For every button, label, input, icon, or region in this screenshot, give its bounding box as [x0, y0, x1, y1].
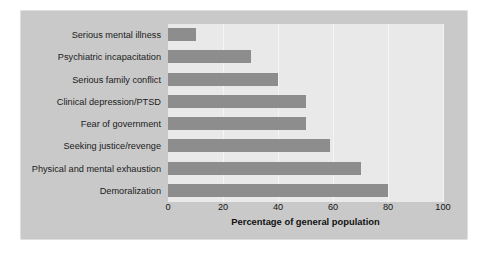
x-tick-label: 60 — [328, 202, 338, 212]
chart-panel: Serious mental illnessPsychiatric incapa… — [21, 11, 467, 239]
x-tick-label: 0 — [165, 202, 170, 212]
x-tick-label: 80 — [383, 202, 393, 212]
gridline-100 — [443, 24, 444, 202]
x-tick-label: 20 — [218, 202, 228, 212]
bar — [168, 162, 361, 175]
bar-row — [168, 180, 443, 202]
bar-series — [168, 24, 443, 202]
figure: Serious mental illnessPsychiatric incapa… — [0, 0, 488, 254]
bar-row — [168, 135, 443, 157]
bar-row — [168, 69, 443, 91]
category-label: Serious mental illness — [72, 24, 161, 46]
category-label: Physical and mental exhaustion — [32, 158, 161, 180]
bar — [168, 184, 388, 197]
bar — [168, 95, 306, 108]
bar — [168, 117, 306, 130]
category-label: Demoralization — [100, 180, 161, 202]
x-tick-label: 100 — [435, 202, 450, 212]
bar-row — [168, 91, 443, 113]
bar — [168, 28, 196, 41]
bar-row — [168, 46, 443, 68]
plot-area — [168, 24, 443, 202]
category-label: Seeking justice/revenge — [63, 135, 161, 157]
bar — [168, 50, 251, 63]
bar-row — [168, 24, 443, 46]
bar-row — [168, 158, 443, 180]
category-axis-labels: Serious mental illnessPsychiatric incapa… — [21, 24, 165, 202]
x-axis-title: Percentage of general population — [168, 216, 443, 227]
x-tick-label: 40 — [273, 202, 283, 212]
bar — [168, 73, 278, 86]
category-label: Clinical depression/PTSD — [57, 91, 161, 113]
bar — [168, 139, 330, 152]
category-label: Fear of government — [81, 113, 161, 135]
category-label: Serious family conflict — [72, 69, 161, 91]
bar-row — [168, 113, 443, 135]
category-label: Psychiatric incapacitation — [58, 46, 161, 68]
